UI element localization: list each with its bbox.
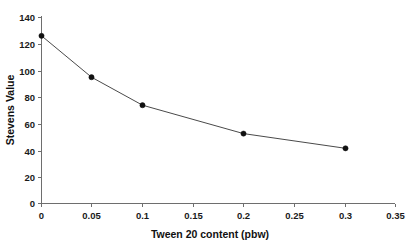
chart-figure: 140 120 100 80 60 40 20 0 0 0.05 0.1 0.1… [0, 0, 409, 244]
x-tick-label: 0.2 [237, 210, 250, 221]
y-axis-tick-labels: 140 120 100 80 60 40 20 0 [19, 12, 35, 209]
y-tick-label: 140 [19, 12, 35, 23]
x-tick-label: 0.3 [339, 210, 352, 221]
x-tick-label: 0.1 [136, 210, 150, 221]
data-point [39, 33, 44, 38]
data-series-line [42, 36, 346, 149]
x-tick-label: 0 [39, 210, 44, 221]
x-tick-label: 0.05 [82, 210, 101, 221]
x-tick-label: 0.25 [285, 210, 304, 221]
x-tick-label: 0.15 [184, 210, 203, 221]
y-axis-title: Stevens Value [4, 75, 16, 146]
x-axis-title: Tween 20 content (pbw) [151, 228, 269, 240]
y-tick-label: 100 [19, 66, 35, 77]
data-point-markers [39, 33, 348, 151]
x-tick-label: 0.35 [386, 210, 405, 221]
data-point [241, 131, 246, 136]
data-point [89, 75, 94, 80]
y-tick-label: 60 [24, 119, 35, 130]
data-point [140, 103, 145, 108]
x-axis-tick-labels: 0 0.05 0.1 0.15 0.2 0.25 0.3 0.35 [39, 210, 406, 221]
data-point [343, 146, 348, 151]
y-tick-label: 20 [24, 172, 35, 183]
y-tick-label: 120 [19, 39, 35, 50]
y-tick-label: 40 [24, 146, 35, 157]
y-tick-label: 0 [30, 198, 35, 209]
line-chart-plot: 140 120 100 80 60 40 20 0 0 0.05 0.1 0.1… [0, 0, 409, 244]
y-tick-label: 80 [24, 92, 35, 103]
x-axis-ticks [42, 204, 396, 207]
y-axis-ticks [38, 18, 41, 204]
